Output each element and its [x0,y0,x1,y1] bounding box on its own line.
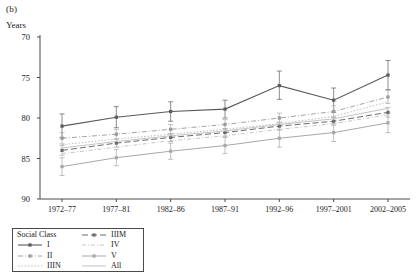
x-tick-label: 1972–77 [34,205,90,214]
x-tick-label: 1987–91 [197,205,253,214]
series-marker-ii [278,116,281,119]
legend-swatch-i [17,240,43,250]
series-marker-v [332,131,335,134]
series-marker-i [60,125,63,128]
legend-marker [92,233,95,236]
series-marker-iiim [60,149,63,152]
legend-marker [28,243,31,246]
plot-area [36,33,412,203]
legend-box: Social Class IIIIIINIIIMIVVAll [12,228,144,272]
series-marker-i [332,99,335,102]
series-marker-v [223,144,226,147]
y-tick-label: 90 [8,194,30,204]
series-marker-ii [169,128,172,131]
y-axis-title: Years [6,20,26,30]
legend-label: IIIM [111,230,126,240]
legend-label: IIIN [47,261,61,271]
legend-label: II [47,251,52,261]
line-chart-svg [36,33,412,203]
chart-figure: (b) Years 9085807570 1972–771977–811982–… [0,0,420,278]
legend-swatch-v [81,251,107,261]
legend-marker [28,254,31,257]
legend-swatch-iiin [17,261,43,271]
x-tick-label: 2002–2005 [360,205,416,214]
y-tick-label: 75 [8,73,30,83]
panel-label: (b) [6,4,17,14]
x-tick-label: 1997–2001 [306,205,362,214]
legend-swatch-ii [17,251,43,261]
legend-label: All [111,261,121,271]
series-marker-i [223,107,226,110]
series-marker-v [386,121,389,124]
legend-title: Social Class [17,230,56,239]
y-tick-label: 85 [8,154,30,164]
series-marker-ii [115,133,118,136]
legend-label: V [111,251,117,261]
series-marker-iiim [332,120,335,123]
series-marker-ii [386,95,389,98]
y-tick-label: 80 [8,113,30,123]
series-marker-iiim [386,111,389,114]
x-tick-label: 1992–96 [251,205,307,214]
series-marker-i [386,73,389,76]
series-marker-ii [60,137,63,140]
x-tick-label: 1982–86 [143,205,199,214]
series-marker-i [115,116,118,119]
series-marker-ii [223,123,226,126]
series-marker-v [115,156,118,159]
series-marker-v [169,150,172,153]
series-marker-v [60,165,63,168]
legend-label: I [47,240,50,250]
series-marker-i [169,110,172,113]
legend-swatch-iiim [81,230,107,240]
series-marker-v [278,137,281,140]
series-marker-i [278,84,281,87]
legend-marker [92,254,95,257]
y-tick-label: 70 [8,32,30,42]
x-tick-label: 1977–81 [88,205,144,214]
legend-label: IV [111,240,119,250]
series-marker-ii [332,110,335,113]
legend-swatch-iv [81,240,107,250]
legend-swatch-all [81,261,107,271]
